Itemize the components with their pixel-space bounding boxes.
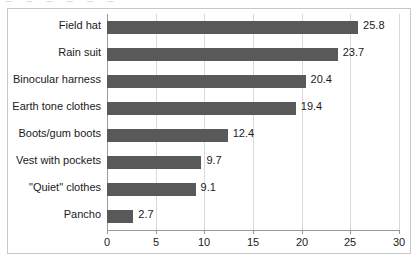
category-label: Vest with pockets: [16, 154, 101, 167]
bar-value-label: 20.4: [311, 73, 332, 86]
x-tick-0: [107, 230, 108, 234]
bar-value-label: 9.7: [206, 154, 221, 167]
x-tick-label: 15: [247, 236, 259, 248]
bar[interactable]: [107, 129, 228, 142]
bar-value-label: 25.8: [363, 19, 384, 32]
category-label: Boots/gum boots: [18, 127, 101, 140]
bar-row: Binocular harness20.4: [107, 68, 399, 95]
plot-area: Field hat25.8Rain suit23.7Binocular harn…: [107, 14, 399, 230]
top-artifact-strip: _ _ _ _ _ _: [0, 0, 418, 7]
bar-rows: Field hat25.8Rain suit23.7Binocular harn…: [107, 14, 399, 230]
bar-value-label: 12.4: [233, 127, 254, 140]
cropped-text-artifact: _ _ _ _ _ _: [6, 0, 119, 2]
x-tick-label: 30: [393, 236, 405, 248]
category-label: Pancho: [64, 208, 101, 221]
chart-frame: Field hat25.8Rain suit23.7Binocular harn…: [7, 8, 411, 254]
bar-row: Rain suit23.7: [107, 41, 399, 68]
category-label: Field hat: [59, 19, 101, 32]
bar[interactable]: [107, 21, 358, 34]
bar[interactable]: [107, 156, 201, 169]
bar[interactable]: [107, 102, 296, 115]
bar-row: "Quiet" clothes9.1: [107, 176, 399, 203]
bar-value-label: 2.7: [138, 208, 153, 221]
bar-value-label: 23.7: [343, 46, 364, 59]
x-axis: 051015202530: [107, 230, 399, 254]
bar[interactable]: [107, 48, 338, 61]
bar-row: Vest with pockets9.7: [107, 149, 399, 176]
x-tick-20: [302, 230, 303, 234]
bar-row: Boots/gum boots12.4: [107, 122, 399, 149]
bar[interactable]: [107, 183, 196, 196]
x-tick-label: 10: [198, 236, 210, 248]
bar[interactable]: [107, 210, 133, 223]
bar[interactable]: [107, 75, 306, 88]
bar-row: Pancho2.7: [107, 203, 399, 230]
bar-row: Field hat25.8: [107, 14, 399, 41]
x-tick-label: 20: [296, 236, 308, 248]
bar-value-label: 9.1: [201, 181, 216, 194]
x-tick-label: 0: [104, 236, 110, 248]
category-label: Rain suit: [58, 46, 101, 59]
x-tick-5: [156, 230, 157, 234]
category-label: Binocular harness: [13, 73, 101, 86]
bar-row: Earth tone clothes19.4: [107, 95, 399, 122]
x-tick-30: [399, 230, 400, 234]
x-tick-25: [350, 230, 351, 234]
x-tick-15: [253, 230, 254, 234]
gridline-30: [399, 14, 400, 230]
x-tick-label: 25: [344, 236, 356, 248]
category-label: Earth tone clothes: [12, 100, 101, 113]
bar-value-label: 19.4: [301, 100, 322, 113]
category-label: "Quiet" clothes: [29, 181, 101, 194]
x-tick-10: [204, 230, 205, 234]
x-tick-label: 5: [153, 236, 159, 248]
